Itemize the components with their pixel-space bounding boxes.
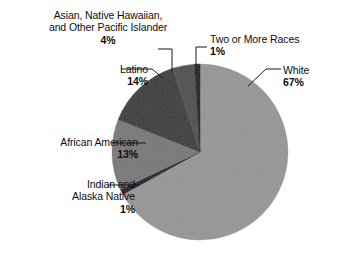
pie-label-african-american-value: 13%	[10, 148, 138, 160]
pie-label-indian-alaska-native-value: 1%	[20, 203, 135, 215]
leader-line-two-or-more	[196, 47, 207, 66]
pie-label-two-or-more-races-line1: Two or More Races	[210, 33, 299, 45]
pie-label-indian-alaska-native: Indian and Alaska Native 1%	[20, 178, 135, 215]
pie-label-two-or-more-races: Two or More Races 1%	[210, 33, 299, 58]
pie-label-latino: Latino 14%	[78, 63, 148, 88]
pie-label-asian-nhpi-value: 4%	[24, 34, 192, 46]
pie-slices-group	[112, 64, 288, 240]
pie-label-latino-value: 14%	[78, 75, 148, 87]
pie-label-asian-nhpi-line2: and Other Pacific Islander	[24, 21, 192, 33]
pie-chart-figure: Asian, Native Hawaiian, and Other Pacifi…	[0, 0, 339, 253]
pie-label-two-or-more-races-value: 1%	[210, 45, 299, 57]
pie-label-white-value: 67%	[283, 76, 309, 88]
pie-label-asian-nhpi-line1: Asian, Native Hawaiian,	[24, 9, 192, 21]
pie-label-african-american-line1: African American	[10, 136, 138, 148]
pie-label-white: White 67%	[283, 64, 309, 89]
pie-label-african-american: African American 13%	[10, 136, 138, 161]
pie-label-indian-alaska-native-line2: Alaska Native	[20, 190, 135, 202]
pie-label-latino-line1: Latino	[78, 63, 148, 75]
pie-label-indian-alaska-native-line1: Indian and	[20, 178, 135, 190]
pie-label-white-line1: White	[283, 64, 309, 76]
pie-label-asian-nhpi: Asian, Native Hawaiian, and Other Pacifi…	[24, 9, 192, 46]
leader-line-asian	[158, 49, 172, 72]
